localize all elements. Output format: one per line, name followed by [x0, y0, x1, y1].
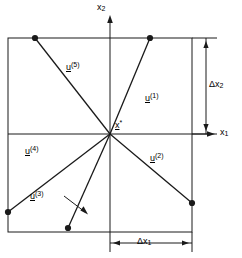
delta-x1-label: Δx1 [137, 237, 151, 246]
endpoint-u3 [65, 225, 71, 231]
vector-u3-label: u(3) [30, 190, 44, 201]
endpoint-u1 [147, 35, 153, 41]
x2-axis-label: x2 [97, 3, 105, 12]
x1-axis-label: x1 [220, 128, 228, 137]
center-point-label: x* [115, 119, 122, 130]
vector-u2-line [110, 134, 192, 203]
vector-u2-label: u(2) [150, 152, 164, 163]
endpoint-u4 [5, 209, 11, 215]
bounding-box [8, 38, 192, 232]
vector-u3-line [68, 134, 110, 228]
vector-u1-label: u(1) [145, 92, 159, 103]
endpoint-u2 [189, 200, 195, 206]
endpoint-u5 [32, 35, 38, 41]
vector-diagram-figure: x2 x1 x* Δx2 Δx1 u(1) u(2) u(3) u(4) u(5… [0, 0, 242, 258]
vector-u4-label: u(4) [25, 145, 39, 156]
vector-u5-label: u(5) [66, 61, 80, 72]
x2-axis [107, 15, 113, 232]
vector-endpoints [5, 35, 195, 231]
vector-u5-line [35, 38, 110, 134]
u3-leader-line [64, 196, 88, 215]
vector-u4-line [8, 134, 110, 212]
delta-x2-label: Δx2 [209, 80, 223, 89]
